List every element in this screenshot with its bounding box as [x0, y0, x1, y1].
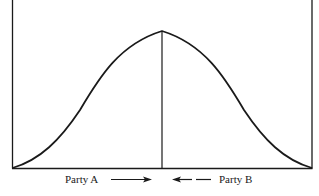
party-a-label: Party A: [65, 172, 98, 186]
bell-curve-diagram: [0, 0, 319, 196]
party-b-arrow-icon: [172, 177, 211, 183]
party-a-arrow-icon: [111, 177, 152, 183]
party-b-label: Party B: [219, 172, 252, 186]
